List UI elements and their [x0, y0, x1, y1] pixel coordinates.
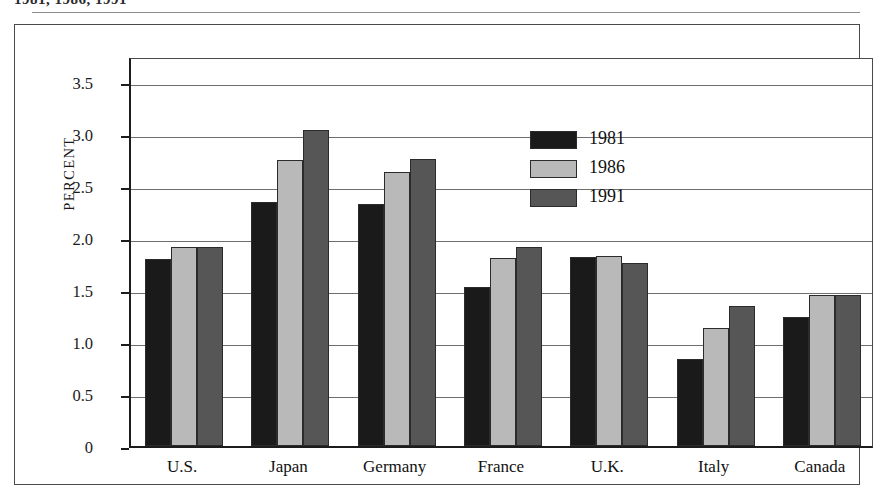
y-axis-tick-label: 0.5 — [45, 388, 93, 405]
y-axis-tick-label: 3.0 — [45, 128, 93, 145]
bar — [464, 287, 490, 446]
bar — [516, 247, 542, 446]
y-axis-tick-label: 3.5 — [45, 76, 93, 93]
bar — [677, 359, 703, 446]
legend-swatch — [530, 189, 577, 207]
caption-divider — [32, 12, 860, 13]
bar — [809, 295, 835, 446]
y-axis-tick-mark — [121, 188, 129, 190]
bar — [490, 258, 516, 446]
legend-swatch — [530, 160, 577, 178]
y-axis-tick-mark — [121, 292, 129, 294]
bar — [835, 295, 861, 446]
legend-label: 1991 — [589, 186, 625, 207]
y-axis-tick-mark — [121, 396, 129, 398]
plot-area: 198119861991 — [129, 58, 873, 448]
gridline — [131, 85, 872, 86]
bar — [251, 202, 277, 446]
bar — [145, 259, 171, 446]
bar — [358, 204, 384, 446]
legend-label: 1986 — [589, 157, 625, 178]
bar — [622, 263, 648, 446]
figure-frame: PERCENT 00.51.01.52.02.53.03.5 198119861… — [14, 24, 860, 485]
legend-swatch — [530, 131, 577, 149]
gridline — [131, 189, 872, 190]
bar — [729, 306, 755, 446]
y-axis-tick-mark — [121, 136, 129, 138]
bar — [570, 257, 596, 446]
bar — [384, 172, 410, 446]
y-axis-tick-mark — [121, 344, 129, 346]
y-axis-tick-mark — [121, 84, 129, 86]
y-axis-tick-label: 2.0 — [45, 232, 93, 249]
legend-label: 1981 — [589, 128, 625, 149]
y-axis-tick-label: 2.5 — [45, 180, 93, 197]
y-axis-tick-mark — [121, 448, 129, 450]
bar — [277, 160, 303, 446]
bar — [410, 159, 436, 446]
bar — [783, 317, 809, 446]
y-axis-tick-mark — [121, 240, 129, 242]
gridline — [131, 241, 872, 242]
bar — [703, 328, 729, 446]
y-axis-tick-label: 0 — [45, 440, 93, 457]
figure-caption: 1981, 1986, 1991 — [14, 0, 127, 8]
gridline — [131, 137, 872, 138]
bar — [171, 247, 197, 446]
y-axis-tick-label: 1.5 — [45, 284, 93, 301]
x-axis-tick-label: Canada — [750, 457, 875, 477]
bar — [197, 247, 223, 446]
bar — [596, 256, 622, 446]
bar — [303, 130, 329, 446]
y-axis-tick-label: 1.0 — [45, 336, 93, 353]
